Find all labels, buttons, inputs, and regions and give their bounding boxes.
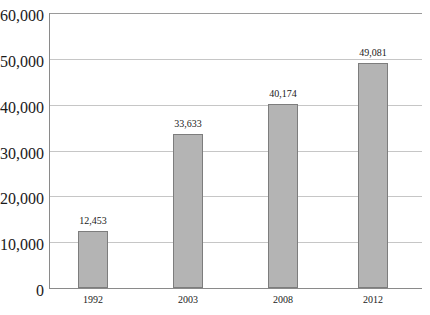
y-tick-text: 20,000 bbox=[0, 190, 44, 207]
bar-value-1992: 12,453 bbox=[58, 215, 128, 226]
bar-chart: 60,000 50,000 40,000 30,000 20,000 10,00… bbox=[0, 0, 430, 315]
y-tick-label-30000: 30,000 bbox=[0, 145, 44, 163]
x-tick-label-2012: 2012 bbox=[338, 294, 408, 305]
gridline-50000 bbox=[49, 59, 422, 60]
y-tick-label-40000: 40,000 bbox=[0, 99, 44, 117]
bar-value-2008: 40,174 bbox=[248, 88, 318, 99]
bar-1992 bbox=[78, 231, 108, 288]
bar-2012 bbox=[358, 63, 388, 288]
x-tick-label-1992: 1992 bbox=[58, 294, 128, 305]
y-tick-label-0: 0 bbox=[0, 282, 44, 300]
caption-clipped bbox=[0, 307, 430, 315]
y-tick-label-10000: 10,000 bbox=[0, 236, 44, 254]
gridline-60000 bbox=[49, 13, 422, 14]
y-tick-text: 30,000 bbox=[0, 145, 44, 162]
y-tick-text: 0 bbox=[36, 282, 44, 299]
y-tick-label-20000: 20,000 bbox=[0, 190, 44, 208]
y-tick-text: 60,000 bbox=[0, 7, 44, 24]
y-tick-label-60000: 60,000 bbox=[0, 7, 44, 25]
bar-2008 bbox=[268, 104, 298, 288]
y-tick-text: 50,000 bbox=[0, 53, 44, 70]
y-tick-text: 10,000 bbox=[0, 236, 44, 253]
y-tick-text: 40,000 bbox=[0, 99, 44, 116]
x-tick-label-2008: 2008 bbox=[248, 294, 318, 305]
y-tick-label-50000: 50,000 bbox=[0, 53, 44, 71]
bar-value-2012: 49,081 bbox=[338, 47, 408, 58]
x-tick-label-2003: 2003 bbox=[153, 294, 223, 305]
x-axis-line bbox=[49, 288, 422, 289]
bar-value-2003: 33,633 bbox=[153, 118, 223, 129]
bar-2003 bbox=[173, 134, 203, 288]
y-axis-line bbox=[49, 13, 50, 289]
